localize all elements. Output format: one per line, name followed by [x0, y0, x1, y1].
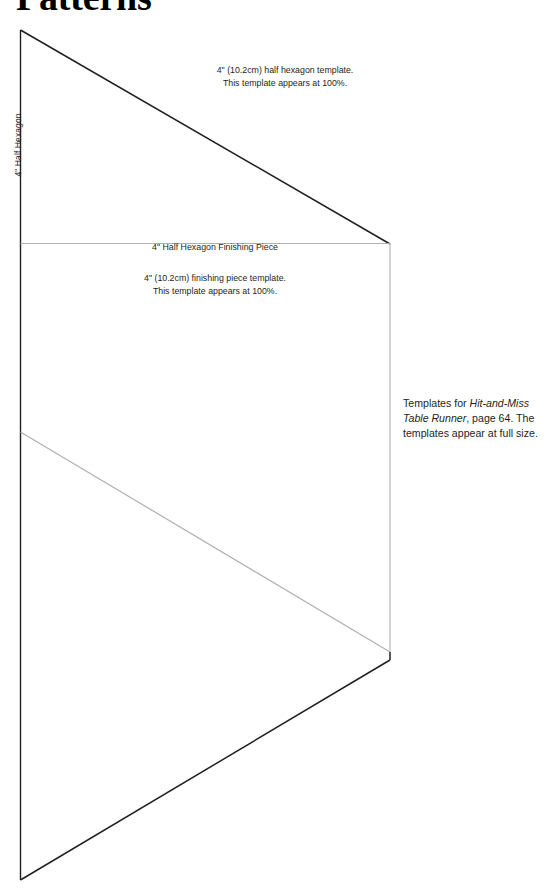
- half-hexagon-side-label: 4" Half Hexagon: [13, 85, 23, 205]
- side-note: Templates for Hit-and-Miss Table Runner,…: [403, 396, 548, 441]
- finishing-piece-caption-line1: 4" (10.2cm) finishing piece template.: [60, 272, 370, 285]
- finishing-piece-bottom-diagonal: [21, 432, 391, 652]
- finishing-piece-caption-line2: This template appears at 100%.: [60, 285, 370, 298]
- side-note-lead: Templates for: [403, 397, 470, 409]
- half-hexagon-caption: 4" (10.2cm) half hexagon template. This …: [155, 64, 415, 90]
- finishing-piece-title: 4" Half Hexagon Finishing Piece: [60, 241, 370, 254]
- template-line-art: [0, 0, 555, 888]
- half-hexagon-upper-diagonal: [21, 30, 391, 244]
- half-hexagon-lower-diagonal: [21, 660, 391, 880]
- half-hexagon-caption-line2: This template appears at 100%.: [155, 77, 415, 90]
- finishing-piece-caption: 4" (10.2cm) finishing piece template. Th…: [60, 272, 370, 298]
- half-hexagon-caption-line1: 4" (10.2cm) half hexagon template.: [155, 64, 415, 77]
